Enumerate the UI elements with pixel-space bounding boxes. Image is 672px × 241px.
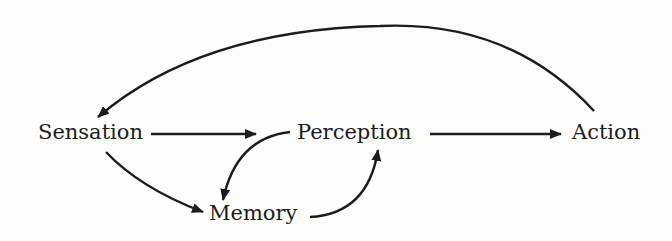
edge-sensation-memory — [106, 152, 203, 212]
edge-memory-perception — [310, 150, 378, 217]
node-memory: Memory — [209, 203, 297, 224]
node-perception: Perception — [297, 122, 412, 143]
edge-perception-memory — [223, 132, 290, 200]
node-sensation: Sensation — [38, 122, 143, 143]
node-action: Action — [572, 122, 640, 143]
edge-action-sensation — [98, 26, 594, 117]
diagram-canvas: Sensation Perception Action Memory — [0, 0, 672, 241]
